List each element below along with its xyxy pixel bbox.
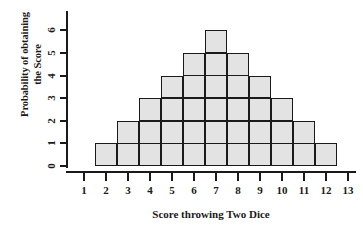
cell-divider-8-2 — [227, 120, 249, 122]
cell-divider-9-2 — [249, 120, 271, 122]
cell-divider-4-1 — [139, 143, 161, 145]
cell-divider-9-3 — [249, 97, 271, 99]
cell-divider-6-4 — [183, 75, 205, 77]
cell-divider-7-5 — [205, 52, 227, 54]
cell-divider-7-4 — [205, 75, 227, 77]
cell-divider-6-2 — [183, 120, 205, 122]
cell-divider-5-2 — [161, 120, 183, 122]
bar-score-12 — [315, 143, 337, 166]
cell-divider-10-1 — [271, 143, 293, 145]
cell-divider-5-1 — [161, 143, 183, 145]
cell-divider-8-3 — [227, 97, 249, 99]
cell-divider-6-3 — [183, 97, 205, 99]
x-axis-label: Score throwing Two Dice — [66, 208, 356, 220]
dice-probability-chart: Probability of obtaining the Score 01234… — [0, 0, 363, 233]
cell-divider-10-2 — [271, 120, 293, 122]
cell-divider-11-1 — [293, 143, 315, 145]
bar-score-8 — [227, 53, 249, 166]
bar-score-4 — [139, 98, 161, 166]
cell-divider-8-4 — [227, 75, 249, 77]
cell-divider-3-1 — [117, 143, 139, 145]
cell-divider-8-1 — [227, 143, 249, 145]
cell-divider-5-3 — [161, 97, 183, 99]
cell-divider-7-2 — [205, 120, 227, 122]
cell-divider-7-1 — [205, 143, 227, 145]
bar-score-2 — [95, 143, 117, 166]
cell-divider-6-1 — [183, 143, 205, 145]
cell-divider-7-3 — [205, 97, 227, 99]
cell-divider-9-1 — [249, 143, 271, 145]
plot-area — [0, 0, 363, 233]
bar-score-10 — [271, 98, 293, 166]
cell-divider-4-2 — [139, 120, 161, 122]
bar-score-6 — [183, 53, 205, 166]
